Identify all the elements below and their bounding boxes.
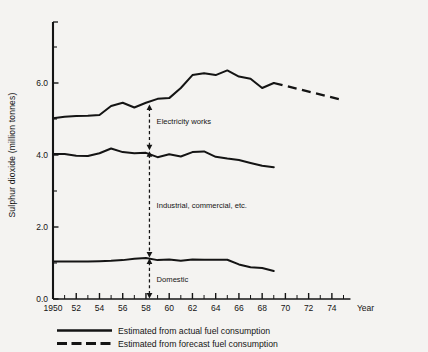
series-line xyxy=(53,258,274,271)
data-series xyxy=(53,70,274,271)
x-tick-label: 64 xyxy=(211,303,221,313)
x-tick-label: 60 xyxy=(164,303,174,313)
x-tick-label: 74 xyxy=(327,303,337,313)
series-line xyxy=(53,149,274,168)
series-annotation-label: Industrial, commercial, etc. xyxy=(157,201,247,210)
sulphur-dioxide-line-chart: Sulphur dioxide (million tonnes) 1950525… xyxy=(0,0,428,352)
x-tick-label: 56 xyxy=(118,303,128,313)
range-arrow-head-up xyxy=(147,104,153,110)
legend: Estimated from actual fuel consumptionEs… xyxy=(57,326,278,349)
series-annotation-label: Domestic xyxy=(157,275,189,284)
forecast-series xyxy=(274,83,344,100)
x-tick-label: 54 xyxy=(95,303,105,313)
x-tick-labels: 1950525456586062646668707274 xyxy=(44,303,337,313)
x-tick-label: 58 xyxy=(141,303,151,313)
x-axis-title: Year xyxy=(357,303,374,313)
x-tick-label: 66 xyxy=(234,303,244,313)
series-annotation-label: Electricity works xyxy=(157,117,212,126)
y-tick-label: 2.0 xyxy=(36,222,48,232)
range-arrow-head-down xyxy=(147,293,153,299)
legend-label: Estimated from actual fuel consumption xyxy=(118,326,270,336)
forecast-line xyxy=(274,83,344,100)
x-tick-label: 62 xyxy=(188,303,198,313)
x-tick-label: 72 xyxy=(304,303,314,313)
axes xyxy=(53,22,350,299)
y-tick-label: 6.0 xyxy=(36,78,48,88)
y-tick-labels: 0.02.04.06.0 xyxy=(36,78,48,304)
x-axis-title-text: Year xyxy=(357,303,374,313)
x-tick-label: 68 xyxy=(257,303,267,313)
y-tick-label: 0.0 xyxy=(36,294,48,304)
x-tick-label: 1950 xyxy=(44,303,63,313)
range-arrows xyxy=(147,104,153,298)
range-arrow-head-down xyxy=(147,145,153,151)
chart-canvas: 1950525456586062646668707274 0.02.04.06.… xyxy=(0,0,428,352)
y-axis-title: Sulphur dioxide (million tonnes) xyxy=(7,55,17,255)
x-tick-label: 70 xyxy=(281,303,291,313)
legend-label: Estimated from forecast fuel consumption xyxy=(118,339,278,349)
y-tick-label: 4.0 xyxy=(36,150,48,160)
x-tick-label: 52 xyxy=(72,303,82,313)
range-arrow-head-down xyxy=(147,252,153,257)
series-line xyxy=(53,70,274,118)
